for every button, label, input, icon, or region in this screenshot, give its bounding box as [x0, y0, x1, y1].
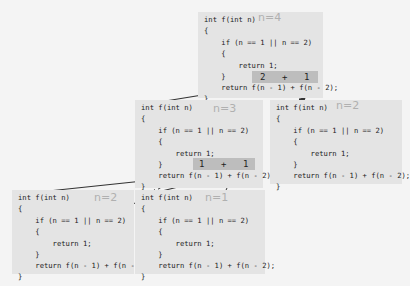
- code-line: if (n == 1 || n == 2): [204, 37, 312, 48]
- code-line: {: [204, 48, 226, 59]
- code-line: return f(n - 1) + f(n - 2);: [204, 82, 338, 93]
- call-box-f1: int f(int n) { if (n == 1 || n == 2) { r…: [135, 190, 265, 274]
- code-line: return f(n - 1) + f(n - 2);: [141, 260, 275, 271]
- code-line: {: [141, 113, 145, 124]
- sum-left: 2: [260, 71, 265, 83]
- code-line: if (n == 1 || n == 2): [141, 125, 249, 136]
- code-line: return 1;: [276, 148, 350, 159]
- code-line: {: [18, 226, 40, 237]
- call-box-f3: int f(int n) { if (n == 1 || n == 2) { r…: [135, 100, 263, 188]
- code-line: }: [276, 159, 298, 170]
- code-line: {: [18, 203, 22, 214]
- code-line: int f(int n): [18, 192, 70, 203]
- code-line: }: [141, 271, 145, 282]
- code-line: return f(n - 1) + f(n - 2);: [18, 260, 152, 271]
- sum-left: 1: [199, 158, 204, 170]
- code-line: }: [18, 271, 22, 282]
- code-line: }: [141, 159, 163, 170]
- sum-bar: 1 + 1: [193, 158, 255, 170]
- code-line: {: [141, 136, 163, 147]
- n-label: n=2: [336, 100, 359, 111]
- n-label: n=1: [205, 192, 228, 203]
- sum-op: +: [221, 158, 226, 170]
- sum-right: 1: [243, 158, 248, 170]
- sum-op: +: [282, 71, 287, 83]
- n-label: n=4: [258, 12, 281, 23]
- code-line: }: [141, 249, 163, 260]
- sum-right: 1: [304, 71, 309, 83]
- sum-bar: 2 + 1: [252, 71, 318, 83]
- call-box-f4: int f(int n) { if (n == 1 || n == 2) { r…: [198, 12, 323, 98]
- code-line: if (n == 1 || n == 2): [18, 215, 126, 226]
- code-line: if (n == 1 || n == 2): [141, 215, 249, 226]
- call-box-f2-left: int f(int n) { if (n == 1 || n == 2) { r…: [12, 190, 134, 274]
- code-line: return f(n - 1) + f(n - 2);: [276, 170, 410, 181]
- n-label: n=3: [213, 103, 236, 114]
- code-line: int f(int n): [141, 192, 193, 203]
- code-line: return f(n - 1) + f(n - 2);: [141, 170, 275, 181]
- code-line: {: [204, 25, 208, 36]
- code-line: }: [18, 249, 40, 260]
- code-line: int f(int n): [141, 102, 193, 113]
- code-line: if (n == 1 || n == 2): [276, 125, 384, 136]
- code-line: return 1;: [141, 238, 215, 249]
- code-line: }: [204, 71, 226, 82]
- call-box-f2-right: int f(int n) { if (n == 1 || n == 2) { r…: [270, 100, 402, 184]
- code-line: {: [276, 136, 298, 147]
- code-line: {: [141, 226, 163, 237]
- code-line: {: [141, 203, 145, 214]
- code-line: return 1;: [204, 60, 278, 71]
- n-label: n=2: [94, 192, 117, 203]
- code-line: {: [276, 113, 280, 124]
- code-line: }: [276, 181, 280, 192]
- code-line: int f(int n): [204, 14, 256, 25]
- code-line: int f(int n): [276, 102, 328, 113]
- code-line: return 1;: [18, 238, 92, 249]
